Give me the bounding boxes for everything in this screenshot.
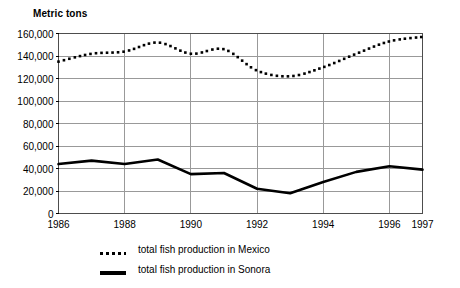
y-tick-label: 40,000 bbox=[0, 163, 54, 174]
data-point-marker bbox=[398, 38, 401, 41]
data-point-marker bbox=[74, 56, 77, 59]
y-tick-label: 20,000 bbox=[0, 186, 54, 197]
data-point-marker bbox=[84, 54, 87, 57]
data-point-marker bbox=[393, 39, 396, 42]
y-tick-label: 120,000 bbox=[0, 73, 54, 84]
data-point-marker bbox=[63, 59, 66, 62]
data-point-marker bbox=[111, 51, 114, 54]
data-point-marker bbox=[106, 51, 109, 54]
y-tick-label: 140,000 bbox=[0, 51, 54, 62]
data-point-marker bbox=[179, 49, 182, 52]
data-point-marker bbox=[404, 37, 407, 40]
data-point-marker bbox=[298, 74, 301, 77]
data-point-marker bbox=[353, 53, 356, 56]
solid-line-swatch bbox=[100, 271, 126, 275]
legend-item-mexico: total fish production in Mexico bbox=[100, 242, 360, 262]
data-point-marker bbox=[195, 52, 198, 55]
series-layer bbox=[57, 36, 422, 194]
data-point-marker bbox=[338, 60, 341, 63]
data-point-marker bbox=[270, 74, 273, 77]
data-point-marker bbox=[184, 51, 187, 54]
x-tick-label: 1992 bbox=[246, 219, 268, 230]
data-point-marker bbox=[232, 53, 235, 56]
data-point-marker bbox=[333, 62, 336, 65]
gridlines bbox=[59, 34, 423, 214]
data-point-marker bbox=[358, 51, 361, 54]
data-point-marker bbox=[89, 53, 92, 56]
data-point-marker bbox=[153, 41, 156, 44]
data-point-marker bbox=[227, 50, 230, 53]
data-point-marker bbox=[138, 46, 141, 49]
data-point-marker bbox=[260, 71, 263, 74]
data-point-marker bbox=[415, 36, 418, 39]
data-point-marker bbox=[95, 52, 98, 55]
data-point-marker bbox=[348, 55, 351, 58]
data-point-marker bbox=[245, 63, 248, 66]
y-tick-label: 0 bbox=[0, 208, 54, 219]
x-tick-label: 1986 bbox=[47, 219, 69, 230]
x-tick-label: 1990 bbox=[180, 219, 202, 230]
legend-label-sonora: total fish production in Sonora bbox=[138, 264, 270, 275]
data-point-marker bbox=[169, 45, 172, 48]
x-tick-label: 1988 bbox=[114, 219, 136, 230]
data-point-marker bbox=[241, 59, 244, 62]
data-point-marker bbox=[373, 45, 376, 48]
data-point-marker bbox=[368, 47, 371, 50]
data-point-marker bbox=[68, 57, 71, 60]
data-point-marker bbox=[174, 47, 177, 50]
data-point-marker bbox=[250, 66, 253, 69]
data-point-marker bbox=[409, 37, 412, 40]
data-point-marker bbox=[211, 48, 214, 51]
x-tick-label: 1994 bbox=[312, 219, 334, 230]
data-point-marker bbox=[217, 47, 220, 50]
dotted-line-swatch bbox=[100, 251, 126, 255]
data-point-marker bbox=[100, 52, 103, 55]
y-tick-label: 100,000 bbox=[0, 96, 54, 107]
data-point-marker bbox=[164, 43, 167, 46]
data-point-marker bbox=[388, 40, 391, 43]
data-point-marker bbox=[143, 44, 146, 47]
data-point-marker bbox=[159, 41, 162, 44]
data-point-marker bbox=[265, 72, 268, 75]
y-tick-label: 80,000 bbox=[0, 118, 54, 129]
data-point-marker bbox=[128, 49, 131, 52]
data-point-marker bbox=[148, 42, 151, 45]
data-point-marker bbox=[363, 49, 366, 52]
data-point-marker bbox=[255, 69, 258, 72]
data-point-marker bbox=[378, 43, 381, 46]
data-point-marker bbox=[206, 50, 209, 53]
x-tick-label: 1997 bbox=[411, 219, 433, 230]
data-point-marker bbox=[222, 48, 225, 51]
data-point-marker bbox=[420, 36, 423, 39]
data-point-marker bbox=[79, 55, 82, 58]
data-point-marker bbox=[190, 52, 193, 55]
data-point-marker bbox=[57, 60, 60, 63]
data-point-marker bbox=[122, 50, 125, 53]
data-point-marker bbox=[313, 69, 316, 72]
data-point-marker bbox=[328, 64, 331, 67]
data-point-marker bbox=[281, 75, 284, 78]
data-point-marker bbox=[201, 51, 204, 54]
x-tick-label: 1996 bbox=[378, 219, 400, 230]
data-point-marker bbox=[287, 75, 290, 78]
chart-figure: Metric tons 020,00040,00060,00080,000100… bbox=[0, 0, 460, 288]
data-point-marker bbox=[236, 56, 239, 59]
data-point-marker bbox=[303, 72, 306, 75]
data-point-marker bbox=[117, 51, 120, 54]
y-tick-label: 160,000 bbox=[0, 28, 54, 39]
data-point-marker bbox=[323, 66, 326, 69]
data-point-marker bbox=[343, 58, 346, 61]
legend-label-mexico: total fish production in Mexico bbox=[138, 244, 270, 255]
series-line-sonora bbox=[59, 160, 423, 194]
legend-item-sonora: total fish production in Sonora bbox=[100, 262, 360, 282]
y-tick-label: 60,000 bbox=[0, 141, 54, 152]
data-point-marker bbox=[318, 67, 321, 70]
data-point-marker bbox=[308, 71, 311, 74]
chart-legend: total fish production in Mexico total fi… bbox=[100, 242, 360, 282]
data-point-marker bbox=[383, 42, 386, 45]
data-point-marker bbox=[276, 75, 279, 78]
data-point-marker bbox=[292, 75, 295, 78]
data-point-marker bbox=[133, 48, 136, 51]
